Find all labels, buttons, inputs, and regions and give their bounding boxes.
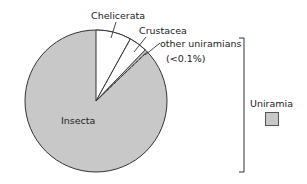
label-other-uniramians: other uniramians (160, 38, 241, 49)
label-chelicerata: Chelicerata (91, 10, 145, 21)
legend-label-uniramia: Uniramia (250, 98, 293, 109)
other-uniramians-leader-line (145, 43, 160, 55)
legend-swatch-uniramia (266, 113, 279, 126)
label-crustacea: Crustacea (139, 25, 187, 36)
pie-chart: Insecta Chelicerata Crustacea other unir… (0, 0, 307, 184)
label-other-uniramians-pct: (<0.1%) (166, 53, 206, 64)
label-insecta: Insecta (61, 115, 95, 126)
uniramia-bracket (239, 38, 244, 172)
